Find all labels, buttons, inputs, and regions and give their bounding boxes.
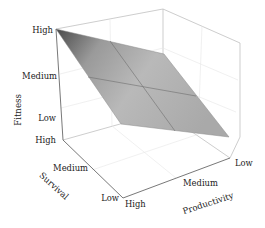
productivity-tick-high: High bbox=[125, 199, 146, 209]
surface-chart: High Medium Low Fitness High Medium Low … bbox=[0, 0, 265, 228]
fitness-tick-high: High bbox=[32, 25, 53, 35]
fitness-axis-label: Fitness bbox=[13, 94, 23, 126]
productivity-tick-low: Low bbox=[235, 158, 254, 168]
survival-tick-medium: Medium bbox=[53, 163, 88, 173]
survival-axis-label: Survival bbox=[37, 170, 71, 202]
survival-tick-high: High bbox=[35, 135, 56, 145]
fitness-tick-medium: Medium bbox=[22, 71, 57, 81]
fitness-axis-line bbox=[56, 29, 63, 140]
survival-tick-low: Low bbox=[101, 193, 120, 203]
productivity-tick-medium: Medium bbox=[183, 178, 218, 188]
productivity-axis-label: Productivity bbox=[181, 190, 235, 216]
fitness-surface bbox=[56, 29, 229, 137]
fitness-tick-low: Low bbox=[38, 113, 57, 123]
